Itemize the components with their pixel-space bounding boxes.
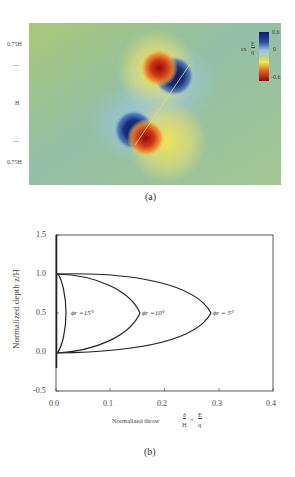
xtick-0.2: 0.2 [157, 399, 167, 408]
x-label-delta: δ [183, 411, 186, 419]
curve-phi-10 [57, 274, 140, 353]
ytick-1.5: 1.5 [36, 230, 46, 239]
caption-b: (b) [144, 446, 156, 457]
x-axis-label: Normalized throw [112, 417, 159, 424]
x-label-q: q [198, 421, 201, 428]
xtick-0.1: 0.1 [103, 399, 113, 408]
x-label-H: H [182, 421, 187, 428]
annotation-phi-5: ϕr = 5° [213, 309, 234, 317]
ytick-0.0: 0.0 [36, 347, 46, 356]
x-label-times: × [190, 416, 194, 423]
xtick-0.3: 0.3 [212, 399, 222, 408]
curve-phi-15 [58, 274, 66, 352]
y-axis-label: Normalized depth z/H [11, 259, 21, 359]
annotation-phi-10: ϕr =10° [142, 309, 165, 317]
x-label-E: E [198, 411, 202, 419]
xtick-0.4: 0.4 [266, 399, 276, 408]
ytick--0.5: -0.5 [33, 386, 46, 395]
ytick-0.5: 0.5 [36, 308, 46, 317]
xtick-0.0: 0.0 [49, 399, 59, 408]
annotation-phi-15: ϕr =15° [71, 309, 94, 317]
ytick-1.0: 1.0 [36, 269, 46, 278]
